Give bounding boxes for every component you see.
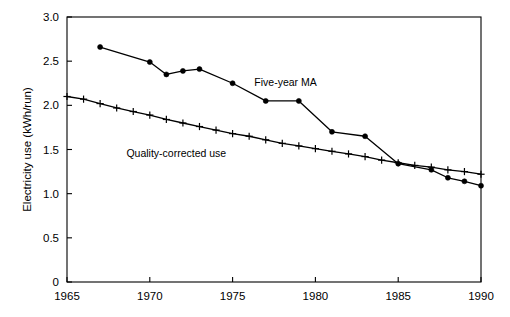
data-point-marker <box>98 45 103 50</box>
line-chart-plot: 00.51.01.52.02.53.0 19651970197519801985… <box>0 0 510 317</box>
x-tick-label: 1970 <box>137 290 163 302</box>
x-tick-label: 1965 <box>54 290 80 302</box>
series-label-2: Quality-corrected use <box>126 147 226 159</box>
data-point-marker <box>230 81 235 86</box>
data-point-marker <box>329 129 334 134</box>
y-tick-label: 0 <box>53 276 59 288</box>
plot-background <box>0 0 510 317</box>
data-point-marker <box>363 134 368 139</box>
chart-figure: Electricity use (kWh/run) 00.51.01.52.02… <box>0 0 510 317</box>
x-tick-label: 1985 <box>385 290 411 302</box>
data-point-marker <box>180 68 185 73</box>
data-point-marker <box>445 175 450 180</box>
y-tick-label: 2.5 <box>43 55 59 67</box>
y-axis-title: Electricity use (kWh/run) <box>18 17 36 282</box>
y-tick-label: 2.0 <box>43 99 59 111</box>
data-point-marker <box>263 98 268 103</box>
x-tick-label: 1975 <box>220 290 246 302</box>
y-tick-label: 0.5 <box>43 232 59 244</box>
data-point-marker <box>147 60 152 65</box>
y-tick-label: 3.0 <box>43 11 59 23</box>
x-tick-label: 1990 <box>468 290 494 302</box>
y-tick-label: 1.5 <box>43 144 59 156</box>
data-point-marker <box>462 179 467 184</box>
data-point-marker <box>197 67 202 72</box>
series-label-1: Five-year MA <box>254 76 316 88</box>
x-tick-label: 1980 <box>303 290 329 302</box>
y-tick-label: 1.0 <box>43 188 59 200</box>
data-point-marker <box>296 98 301 103</box>
data-point-marker <box>164 72 169 77</box>
data-point-marker <box>479 183 484 188</box>
